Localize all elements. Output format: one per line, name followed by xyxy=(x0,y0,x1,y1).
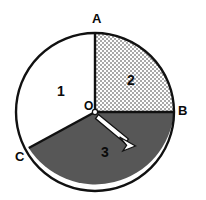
circle-sector-figure: A B C O 1 2 3 xyxy=(0,0,206,200)
circle-diagram-svg xyxy=(0,0,206,200)
vertex-label-A: A xyxy=(92,12,101,25)
vertex-label-B: B xyxy=(178,104,187,117)
sector-label-3: 3 xyxy=(101,145,109,159)
vertex-label-C: C xyxy=(15,150,24,163)
sector-label-1: 1 xyxy=(57,84,65,98)
sector-label-2: 2 xyxy=(127,73,135,87)
vertex-label-O: O xyxy=(84,100,93,113)
